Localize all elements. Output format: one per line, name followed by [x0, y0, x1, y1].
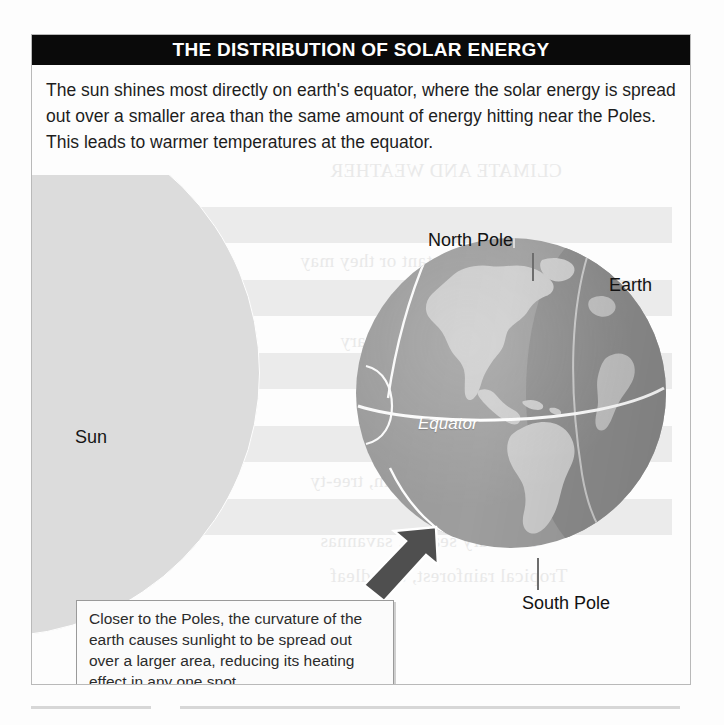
- sun-label: Sun: [75, 427, 107, 448]
- sun-disc: [32, 175, 260, 637]
- north-pole-leader-line: [532, 253, 534, 281]
- earth-label: Earth: [609, 275, 652, 296]
- figure-frame: THE DISTRIBUTION OF SOLAR ENERGY The sun…: [31, 34, 691, 685]
- figure-title: THE DISTRIBUTION OF SOLAR ENERGY: [173, 39, 550, 61]
- figure-intro-text: The sun shines most directly on earth's …: [46, 77, 678, 155]
- footer-rule: [31, 706, 151, 709]
- south-pole-leader-line: [537, 558, 539, 590]
- callout-box: Closer to the Poles, the curvature of th…: [76, 600, 394, 684]
- callout-arrow-icon: [358, 525, 442, 609]
- page-background: CLIMATE AND WEATHER relatively constant …: [0, 0, 724, 725]
- footer-rule: [180, 706, 680, 709]
- south-pole-label: South Pole: [522, 593, 610, 614]
- callout-text: Closer to the Poles, the curvature of th…: [89, 608, 385, 684]
- equator-label: Equator: [418, 414, 478, 434]
- north-pole-label: North Pole: [428, 230, 513, 251]
- solar-energy-illustration: Sun: [32, 175, 690, 684]
- figure-title-bar: THE DISTRIBUTION OF SOLAR ENERGY: [32, 35, 690, 65]
